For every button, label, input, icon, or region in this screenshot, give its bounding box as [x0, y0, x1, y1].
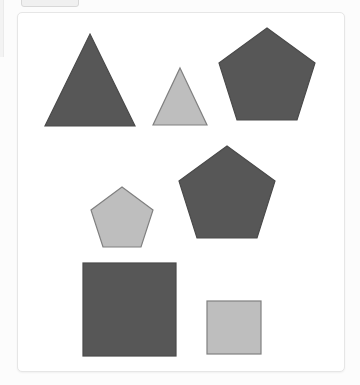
clipped-toolbar-chip	[21, 0, 79, 7]
triangle-large-dark[interactable]	[45, 34, 135, 126]
pentagon-small-light[interactable]	[91, 187, 153, 247]
square-large-dark[interactable]	[83, 263, 176, 356]
clipped-left-rail	[0, 0, 4, 57]
shape-canvas	[18, 13, 346, 373]
pentagon-large-dark-mid[interactable]	[179, 146, 275, 238]
shape-card	[17, 12, 345, 372]
square-small-light[interactable]	[207, 301, 261, 354]
pentagon-large-dark-top[interactable]	[219, 28, 315, 120]
triangle-small-light[interactable]	[153, 68, 207, 125]
